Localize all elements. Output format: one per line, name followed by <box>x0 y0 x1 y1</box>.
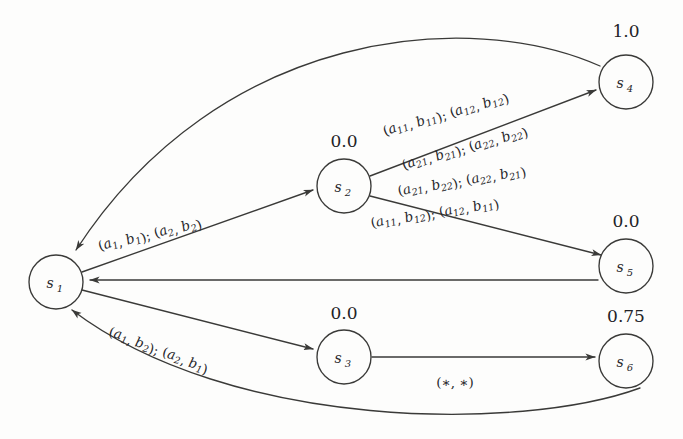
node-s4-subscript: 4 <box>626 83 633 94</box>
edge-label-s3-to-s6: (∗, ∗) <box>436 374 473 390</box>
diagram-page: s 1 s 2 0.0 s 3 0.0 s 4 1.0 s 5 0.0 <box>0 0 683 439</box>
node-s6[interactable]: s 6 0.75 <box>599 306 653 388</box>
node-s4-label: s <box>616 75 623 91</box>
node-s5[interactable]: s 5 0.0 <box>599 211 653 293</box>
node-s2-value: 0.0 <box>330 131 357 151</box>
node-s3-value: 0.0 <box>330 303 357 323</box>
node-s3[interactable]: s 3 0.0 <box>317 303 371 384</box>
node-s3-circle[interactable] <box>317 330 371 384</box>
node-s1[interactable]: s 1 <box>29 255 83 309</box>
node-s2-label: s <box>334 179 341 195</box>
node-s2-circle[interactable] <box>317 159 371 213</box>
node-s6-subscript: 6 <box>627 362 634 373</box>
node-s2[interactable]: s 2 0.0 <box>317 131 371 213</box>
node-s5-value: 0.0 <box>612 211 639 231</box>
node-s5-circle[interactable] <box>599 239 653 293</box>
state-diagram: s 1 s 2 0.0 s 3 0.0 s 4 1.0 s 5 0.0 <box>0 0 683 439</box>
node-s1-circle[interactable] <box>29 255 83 309</box>
node-s5-label: s <box>616 259 623 275</box>
node-s5-subscript: 5 <box>627 267 633 278</box>
node-s2-subscript: 2 <box>344 187 351 198</box>
edge-label-s1-to-s3-text: (a1, b2); (a2, b1) <box>104 323 213 377</box>
edge-label-s1-to-s3: (a1, b2); (a2, b1) <box>104 323 213 377</box>
node-s1-subscript: 1 <box>57 283 63 294</box>
node-s4[interactable]: s 4 1.0 <box>599 21 653 109</box>
edge-label-s3-to-s6-text: (∗, ∗) <box>436 374 473 390</box>
node-s6-value: 0.75 <box>607 306 645 326</box>
node-s4-value: 1.0 <box>612 21 639 41</box>
node-s1-label: s <box>46 275 53 291</box>
node-s3-subscript: 3 <box>345 358 351 369</box>
node-s6-circle[interactable] <box>599 334 653 388</box>
node-s4-circle[interactable] <box>599 55 653 109</box>
node-s3-label: s <box>334 350 341 366</box>
node-s6-label: s <box>616 354 623 370</box>
